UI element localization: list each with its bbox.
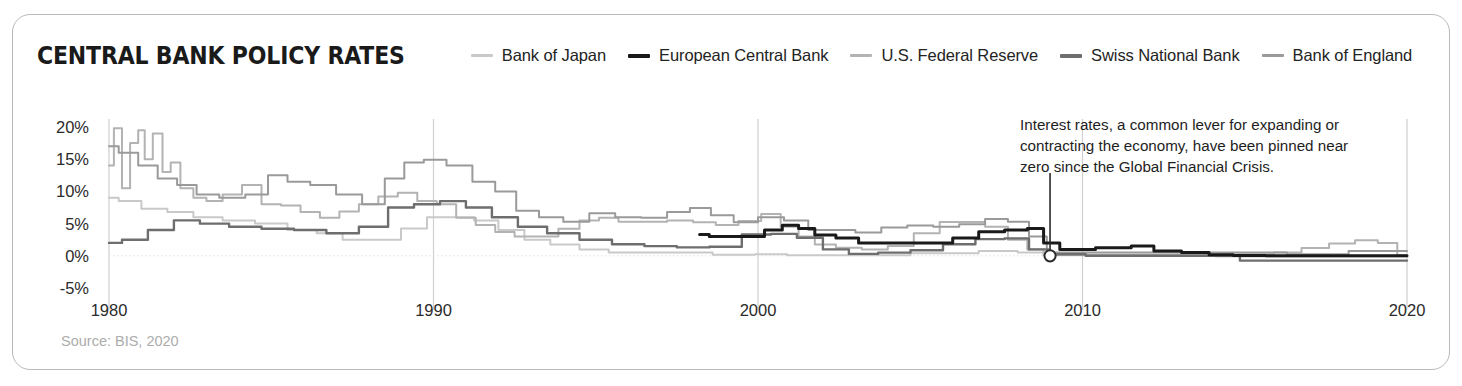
x-axis-labels: 19801990200020102020: [13, 301, 1451, 325]
annotation-marker-dot: [1044, 250, 1055, 261]
x-axis-tick-label: 1980: [91, 301, 128, 320]
x-axis-tick-label: 2000: [740, 301, 777, 320]
source-note: Source: BIS, 2020: [61, 333, 179, 349]
x-axis-tick-label: 2010: [1064, 301, 1101, 320]
chart-screenshot-root: CENTRAL BANK POLICY RATES Bank of JapanE…: [0, 0, 1462, 386]
x-axis-tick-label: 2020: [1389, 301, 1426, 320]
plot-area: 20%15%10%5%0%-5% 19801990200020102020 In…: [13, 15, 1451, 371]
chart-card: CENTRAL BANK POLICY RATES Bank of JapanE…: [12, 14, 1450, 370]
annotation-text: Interest rates, a common lever for expan…: [1020, 115, 1380, 178]
x-axis-tick-label: 1990: [415, 301, 452, 320]
